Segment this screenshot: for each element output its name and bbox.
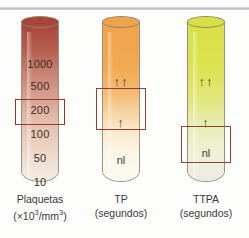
- highlight-box-platelets: [15, 99, 65, 125]
- caption-aptt-line1: TTPA: [193, 193, 219, 205]
- caption-platelets-line1: Plaquetas: [17, 193, 64, 205]
- figure-canvas: 1000 500 200 100 50 10 ↑↑ ↑ nl ↑↑ ↑ nl P…: [0, 0, 249, 238]
- caption-aptt-line2: (segundos): [158, 206, 249, 220]
- caption-platelets-units-mid: /mm: [39, 210, 59, 222]
- caption-aptt: TTPA (segundos): [158, 192, 249, 220]
- caption-platelets-units-post: ): [63, 210, 67, 222]
- top-divider-rule: [0, 7, 249, 10]
- scale-label-100: 100: [21, 128, 59, 140]
- scale-label-50: 50: [21, 152, 59, 164]
- highlight-box-aptt: [181, 126, 231, 163]
- caption-pt-line1: TP: [114, 193, 127, 205]
- top-margin: [0, 0, 249, 7]
- tube-pt-rim: [102, 16, 140, 28]
- tube-platelets-rim: [21, 16, 59, 28]
- scale-label-500: 500: [21, 80, 59, 92]
- scale-label-1000: 1000: [21, 58, 59, 70]
- caption-platelets-units-pre: (×10: [13, 210, 34, 222]
- caption-pt: TP (segundos): [73, 192, 169, 220]
- scale-label-10: 10: [21, 176, 59, 188]
- tube-aptt-rim: [187, 16, 225, 28]
- tube-aptt-double-arrow: ↑↑: [187, 75, 225, 88]
- caption-pt-line2: (segundos): [73, 206, 169, 220]
- tube-pt-normal-label: nl: [102, 154, 140, 166]
- highlight-box-pt: [96, 88, 146, 130]
- tube-pt-double-arrow: ↑↑: [102, 75, 140, 88]
